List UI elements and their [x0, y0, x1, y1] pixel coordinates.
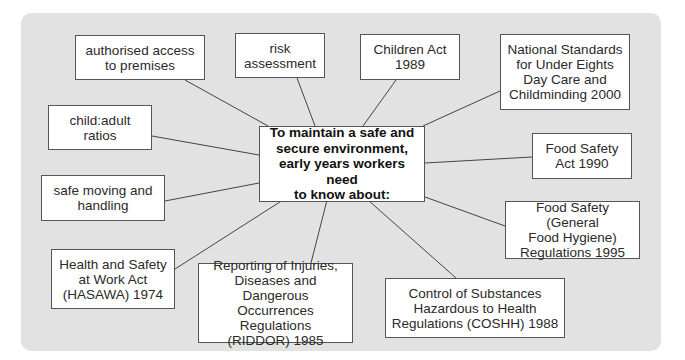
node-national-standards: National Standards for Under Eights Day … — [500, 34, 630, 110]
connector-authorised-access — [185, 80, 268, 126]
connector-child-adult-ratios — [152, 136, 259, 155]
connector-safe-moving — [165, 183, 259, 201]
connector-coshh — [368, 200, 456, 278]
node-risk-assessment: risk assessment — [235, 33, 325, 78]
node-coshh: Control of Substances Hazardous to Healt… — [385, 278, 565, 338]
node-authorised-access: authorised access to premises — [75, 35, 205, 80]
central-topic-box: To maintain a safe and secure environmen… — [259, 126, 425, 202]
node-children-act: Children Act 1989 — [360, 34, 460, 80]
connector-children-act — [363, 80, 396, 126]
node-child-adult-ratios: child:adult ratios — [48, 105, 152, 150]
connector-riddor — [311, 200, 327, 263]
node-food-safety-act: Food Safety Act 1990 — [532, 133, 632, 179]
node-safe-moving: safe moving and handling — [41, 175, 165, 221]
connector-risk-assessment — [297, 78, 315, 126]
connector-food-safety-act — [425, 157, 532, 163]
node-riddor: Reporting of Injuries, Diseases and Dang… — [198, 263, 353, 343]
node-hasawa: Health and Safety at Work Act (HASAWA) 1… — [51, 249, 175, 309]
connector-national-standards — [423, 91, 500, 126]
connector-food-safety-general — [425, 197, 505, 226]
node-food-safety-general: Food Safety (General Food Hygiene) Regul… — [505, 201, 640, 259]
